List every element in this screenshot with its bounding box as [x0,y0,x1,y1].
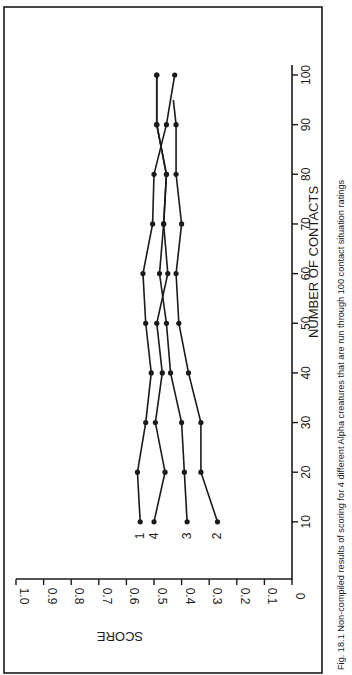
rotated-line-chart-figure: 102030405060708090100 00.10.20.30.40.50.… [0,0,352,675]
y-tick-label: 0.6 [127,588,141,605]
data-point [154,72,159,77]
y-axis-label: SCORE [97,629,144,644]
data-point [173,172,178,177]
data-point [182,470,187,475]
y-tick-label: 0.8 [72,588,86,605]
y-tick-label: 0.3 [210,588,224,605]
data-point [172,72,177,77]
x-tick-label: 10 [299,515,313,529]
data-point [198,420,203,425]
data-point [173,122,178,127]
data-point [143,420,148,425]
x-tick-label: 90 [299,118,313,132]
data-point [149,370,154,375]
data-point [179,221,184,226]
y-tick-label: 0.7 [100,588,114,605]
figure-frame [4,7,322,673]
figure-caption: Fig. 18.1 Non-compiled results of scorin… [336,179,346,670]
data-point [153,420,158,425]
y-axis-ticks: 00.10.20.30.40.50.60.70.80.91.0 [16,579,307,605]
data-point [140,271,145,276]
x-tick-label: 20 [299,465,313,479]
x-tick-label: 80 [299,167,313,181]
data-point [154,122,159,127]
data-point [138,519,143,524]
y-tick-label: 0.2 [238,588,252,605]
series-label: 2 [210,532,224,539]
x-tick-label: 40 [299,366,313,380]
y-tick-label: 0.4 [183,588,197,605]
data-point [164,321,169,326]
series-line [137,75,174,522]
y-tick-label: 1.0 [17,588,31,605]
x-axis-label: NUMBER OF CONTACTS [306,186,321,338]
data-point [162,470,167,475]
series-label: 4 [147,532,161,539]
series-4: 4 [147,72,170,539]
x-tick-label: 100 [299,65,313,85]
data-point [143,321,148,326]
data-point [165,271,170,276]
data-point [154,321,159,326]
chart-canvas: 102030405060708090100 00.10.20.30.40.50.… [0,0,352,675]
data-point [150,221,155,226]
x-tick-label: 30 [299,416,313,430]
series-layer: 1234 [133,72,224,539]
data-point [173,271,178,276]
data-point [151,519,156,524]
data-point [160,370,165,375]
data-point [164,172,169,177]
y-tick-label: 0.9 [45,588,59,605]
data-point [164,122,169,127]
data-point [157,271,162,276]
data-point [179,420,184,425]
series-2: 2 [173,100,224,539]
y-tick-label: 0.5 [155,588,169,605]
data-point [168,370,173,375]
data-point [135,470,140,475]
data-point [215,519,220,524]
data-point [161,221,166,226]
data-point [198,470,203,475]
data-point [176,321,181,326]
y-tick-label: 0.1 [265,588,279,605]
series-label: 1 [133,532,147,539]
data-point [186,370,191,375]
series-line [173,100,217,522]
series-1: 1 [133,72,177,539]
y-tick-label: 0 [293,593,307,600]
series-line [154,75,168,522]
data-point [151,172,156,177]
data-point [185,519,190,524]
series-label: 3 [180,532,194,539]
